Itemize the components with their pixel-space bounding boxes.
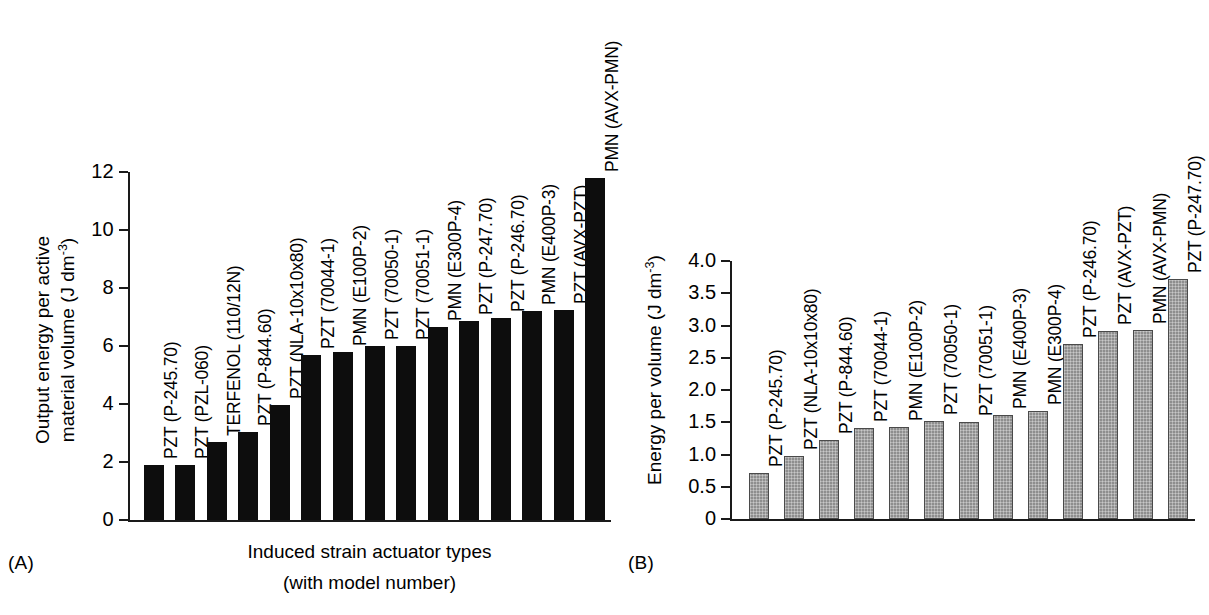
bar-category-label: PZT (70050-1) (941, 304, 962, 415)
panel-a-y-axis-title-line2-tail: ) (57, 238, 78, 244)
panel-a-y-tick (119, 229, 128, 231)
bar[interactable] (854, 428, 874, 519)
panel-a-y-axis-title-line1: Output energy per active (32, 236, 53, 444)
panel-b-y-tick-label: 2.0 (688, 378, 716, 401)
bar[interactable] (1098, 331, 1118, 519)
panel-b-y-tick (721, 260, 730, 262)
panel-a: Output energy per active material volume… (0, 0, 620, 615)
bar[interactable] (428, 327, 448, 520)
bar[interactable] (238, 432, 258, 520)
bar-category-label: PZT (P-844.60) (836, 317, 857, 434)
panel-a-y-axis-line (128, 172, 130, 522)
bar[interactable] (491, 318, 511, 520)
panel-b-y-tick-label: 0.5 (688, 475, 716, 498)
bar[interactable] (993, 415, 1013, 519)
panel-b-y-axis-title-line1: Energy per volume (J dm (644, 273, 665, 485)
panel-a-x-axis-line (128, 520, 611, 522)
bar-category-label: PZT (70050-1) (382, 229, 403, 340)
bar[interactable] (784, 456, 804, 519)
panel-b-y-tick (721, 292, 730, 294)
bar[interactable] (889, 427, 909, 519)
panel-b-y-tick-label: 4.0 (688, 249, 716, 272)
panel-b-y-axis-title-line2-tail: ) (644, 255, 665, 261)
bar-category-label: PZT (70044-1) (871, 311, 892, 422)
bar[interactable] (1133, 330, 1153, 519)
bar[interactable] (749, 473, 769, 519)
bar-category-label: PMN (E400P-3) (539, 184, 560, 305)
bar[interactable] (522, 311, 542, 520)
panel-a-y-axis-title-line2: material volume (J dm (57, 255, 78, 442)
panel-b-y-tick-label: 1.5 (688, 410, 716, 433)
bar-category-label: PZT (70051-1) (413, 229, 434, 340)
panel-b-plot-area: 00.51.01.52.02.53.03.54.0 PZT (P-245.70)… (730, 261, 1195, 521)
bar-category-label: PZT (P-247.70) (1185, 156, 1206, 273)
bar-category-label: PZT (P-247.70) (476, 198, 497, 315)
bar[interactable] (270, 405, 290, 520)
panel-b-y-tick (721, 389, 730, 391)
panel-b-y-tick (721, 357, 730, 359)
panel-b-tag: (B) (628, 552, 654, 574)
bar-category-label: PZT (P-245.70) (766, 349, 787, 466)
bar-category-label: PZT (NLA-10x10x80) (801, 288, 822, 449)
bar-category-label: PMN (E300P-4) (445, 200, 466, 321)
panel-a-plot-area: 024681012 PZT (P-245.70)PZT (PZL-060)TER… (128, 172, 611, 522)
panel-b-y-tick-label: 3.5 (688, 281, 716, 304)
panel-a-y-tick-label: 12 (91, 160, 113, 183)
panel-b-y-tick-label: 1.0 (688, 443, 716, 466)
panel-a-y-tick (119, 345, 128, 347)
bar[interactable] (819, 440, 839, 519)
panel-b: Energy per volume (J dm-3) 00.51.01.52.0… (620, 0, 1209, 615)
panel-a-tag: (A) (8, 552, 34, 574)
bar[interactable] (554, 310, 574, 520)
panel-a-y-tick (119, 287, 128, 289)
bar-category-label: PZT (P-246.70) (1080, 220, 1101, 337)
panel-a-y-tick (119, 403, 128, 405)
bar-category-label: PMN (E100P-2) (350, 225, 371, 346)
panel-b-y-tick (721, 454, 730, 456)
panel-b-y-tick-label: 2.5 (688, 346, 716, 369)
panel-a-y-axis-title-exponent: -3 (56, 244, 70, 255)
bar-category-label: PMN (E100P-2) (906, 300, 927, 421)
panel-b-y-tick (721, 421, 730, 423)
panel-b-y-axis-title-exponent: -3 (643, 261, 657, 272)
panel-a-y-tick-label: 0 (102, 508, 113, 531)
panel-b-y-axis-line (730, 261, 732, 521)
bar[interactable] (365, 346, 385, 520)
bar[interactable] (1028, 411, 1048, 519)
bar[interactable] (959, 422, 979, 519)
figure-root: Output energy per active material volume… (0, 0, 1209, 615)
bar-category-label: PZT (70051-1) (976, 305, 997, 416)
bar[interactable] (924, 421, 944, 519)
panel-b-y-tick-label: 0 (705, 507, 716, 530)
bar-category-label: PMN (E400P-3) (1010, 288, 1031, 409)
bar[interactable] (1168, 279, 1188, 519)
panel-a-y-tick-label: 6 (102, 334, 113, 357)
panel-a-x-axis-title: Induced strain actuator types (with mode… (128, 536, 611, 598)
bar-category-label: PZT (AVX-PZT) (1115, 205, 1136, 324)
bar[interactable] (207, 442, 227, 520)
bar[interactable] (144, 465, 164, 520)
bar-category-label: PZT (P-246.70) (508, 195, 529, 312)
bar[interactable] (301, 355, 321, 520)
panel-a-y-tick-label: 2 (102, 450, 113, 473)
panel-b-y-axis-title: Energy per volume (J dm-3) (642, 220, 667, 520)
panel-b-y-tick (721, 518, 730, 520)
panel-a-y-axis-title: Output energy per active material volume… (30, 160, 80, 520)
bar-category-label: PZT (70044-1) (318, 238, 339, 349)
bar[interactable] (175, 465, 195, 520)
bar[interactable] (1063, 344, 1083, 519)
bar[interactable] (459, 321, 479, 520)
panel-a-y-tick (119, 461, 128, 463)
panel-a-y-tick-label: 4 (102, 392, 113, 415)
panel-a-y-tick (119, 171, 128, 173)
bar-category-label: TERFENOL (110/12N) (224, 265, 245, 435)
bar[interactable] (585, 178, 605, 520)
bar[interactable] (396, 346, 416, 520)
bar-category-label: PZT (P-245.70) (161, 341, 182, 458)
bar[interactable] (333, 352, 353, 520)
panel-b-y-tick-label: 3.0 (688, 314, 716, 337)
panel-b-y-tick (721, 486, 730, 488)
panel-a-y-tick-label: 10 (91, 218, 113, 241)
panel-b-x-axis-line (730, 519, 1195, 521)
panel-a-x-axis-title-line2: (with model number) (128, 567, 611, 598)
